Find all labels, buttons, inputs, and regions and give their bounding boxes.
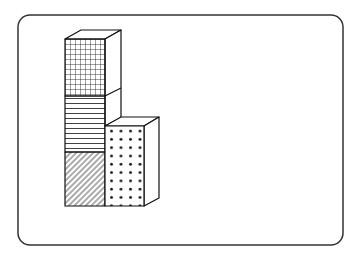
short-column xyxy=(105,117,159,206)
block-diagram xyxy=(0,0,360,254)
tall-column-striped-segment xyxy=(65,96,105,152)
short-column-side-face xyxy=(144,117,159,206)
tall-column-grid-segment xyxy=(65,39,105,96)
tall-column-hatched-segment xyxy=(65,152,105,206)
tall-column-side-face xyxy=(105,30,121,126)
